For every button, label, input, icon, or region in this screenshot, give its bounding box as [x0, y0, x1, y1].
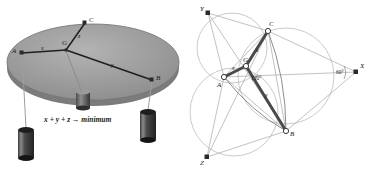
label-angle-60: 60°: [336, 69, 344, 75]
label-point-C: C: [269, 20, 274, 28]
table-top: [7, 24, 179, 100]
vertex-markers: [205, 11, 359, 160]
marker-Z: [205, 155, 210, 160]
marker-C: [83, 21, 87, 25]
construction-lines: [207, 13, 356, 157]
marker-G: [243, 63, 248, 68]
line-Z-A: [207, 77, 224, 157]
label-segment-x: x: [40, 45, 44, 51]
line-A-B: [224, 77, 286, 131]
line-Z-C: [207, 31, 268, 157]
label-point-A: A: [11, 47, 17, 55]
marker-A: [221, 74, 226, 79]
marker-C: [265, 28, 270, 33]
label-point-C: C: [89, 16, 94, 24]
label-point-X: X: [359, 62, 365, 70]
table-slab: [7, 24, 179, 106]
label-point-G: G: [243, 56, 248, 64]
label-point-B: B: [156, 74, 161, 82]
left-figure-svg: A B C G x y z x + y + z → minimum: [0, 0, 186, 170]
circle-AZB: [190, 68, 278, 156]
label-angle-120: 120°: [251, 75, 261, 81]
weight-right: [140, 109, 156, 143]
label-point-Z: Z: [200, 159, 204, 167]
marker-X: [354, 70, 359, 75]
line-Y-C: [208, 13, 268, 31]
label-segment-x: x: [231, 65, 235, 71]
marker-B: [150, 78, 154, 82]
label-segment-y: y: [110, 62, 114, 68]
caption-minimum-equation: x + y + z → minimum: [43, 115, 111, 124]
marker-G: [64, 48, 68, 52]
figure-wrap: A B C G x y z x + y + z → minimum: [0, 0, 372, 170]
line-Y-A: [208, 13, 224, 77]
line-X-C: [268, 31, 356, 72]
weight-left: [18, 127, 34, 161]
table-leg: [76, 89, 90, 110]
line-Z-B: [207, 131, 286, 157]
panel-steiner-construction: Y C X A G B Z x y z 120° 60°: [186, 0, 372, 170]
label-point-G: G: [62, 39, 67, 47]
label-point-A: A: [216, 81, 222, 89]
panel-weights-on-table: A B C G x y z x + y + z → minimum: [0, 0, 186, 170]
marker-B: [283, 128, 288, 133]
right-figure-svg: Y C X A G B Z x y z 120° 60°: [186, 0, 372, 170]
label-point-Y: Y: [200, 5, 205, 13]
label-segment-y: y: [264, 92, 268, 98]
line-X-B: [286, 72, 356, 131]
marker-A: [20, 51, 24, 55]
marker-Y: [206, 11, 211, 16]
label-point-B: B: [290, 130, 295, 138]
